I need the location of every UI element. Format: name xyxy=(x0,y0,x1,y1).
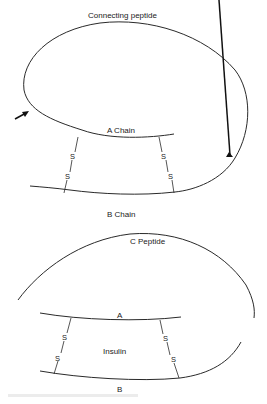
diagram-canvas: S S S S Connecting peptide A Chain B Cha… xyxy=(0,0,267,404)
faded-caption xyxy=(8,394,138,397)
b-chain-label: B Chain xyxy=(107,210,135,219)
sulfur-label: S xyxy=(163,334,168,343)
a-chain-label: A Chain xyxy=(107,126,135,135)
disulfide-bond-left: S S xyxy=(64,137,78,193)
connecting-peptide-loop xyxy=(24,22,248,194)
sulfur-label: S xyxy=(171,355,176,364)
sulfur-label: S xyxy=(70,152,75,161)
sulfur-label: S xyxy=(161,152,166,161)
a-chain-label: A xyxy=(117,311,123,320)
c-peptide-label: C Peptide xyxy=(130,237,166,246)
cleavage-arrow-left-icon xyxy=(15,111,29,119)
sulfur-label: S xyxy=(168,172,173,181)
proinsulin-diagram: S S S S Connecting peptide A Chain B Cha… xyxy=(15,0,248,219)
connecting-peptide-label: Connecting peptide xyxy=(88,11,157,20)
c-peptide-curve xyxy=(18,233,254,318)
disulfide-bond-right: S S xyxy=(159,137,174,193)
b-chain-curve xyxy=(40,342,241,380)
insulin-label: Insulin xyxy=(103,347,126,356)
disulfide-bond-left: S S xyxy=(54,318,71,374)
sulfur-label: S xyxy=(65,172,70,181)
cleavage-arrow-right-icon xyxy=(219,0,233,157)
b-chain-label: B xyxy=(117,385,122,394)
sulfur-label: S xyxy=(62,333,67,342)
insulin-diagram: S S S S C Peptide A Insulin B xyxy=(18,233,254,394)
disulfide-bond-right: S S xyxy=(160,320,179,378)
a-chain-curve xyxy=(40,313,181,320)
sulfur-label: S xyxy=(55,354,60,363)
